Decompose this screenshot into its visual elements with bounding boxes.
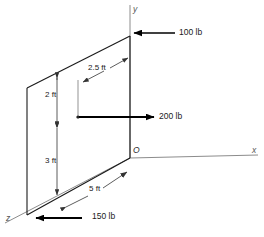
axis-label-z: z (6, 214, 10, 223)
axis-label-y: y (133, 5, 137, 14)
force-label-200lb: 200 lb (159, 112, 182, 121)
force-diagram-figure: y x z O 100 lb 200 lb 150 lb 2.5 ft 2 ft… (0, 0, 264, 237)
axis-label-x: x (252, 146, 256, 155)
axis-x (130, 155, 258, 158)
origin-label: O (133, 146, 140, 155)
diagram-canvas (0, 0, 264, 237)
dimension-label-2-5ft: 2.5 ft (88, 64, 106, 72)
force-arrow-200lb (76, 115, 154, 118)
dimension-label-2ft: 2 ft (45, 91, 56, 99)
plate-outline (27, 36, 130, 215)
dimension-label-3ft: 3 ft (45, 157, 56, 165)
dimension-label-5ft: 5 ft (89, 185, 100, 193)
force-label-150lb: 150 lb (92, 212, 115, 221)
force-label-100lb: 100 lb (179, 28, 202, 37)
